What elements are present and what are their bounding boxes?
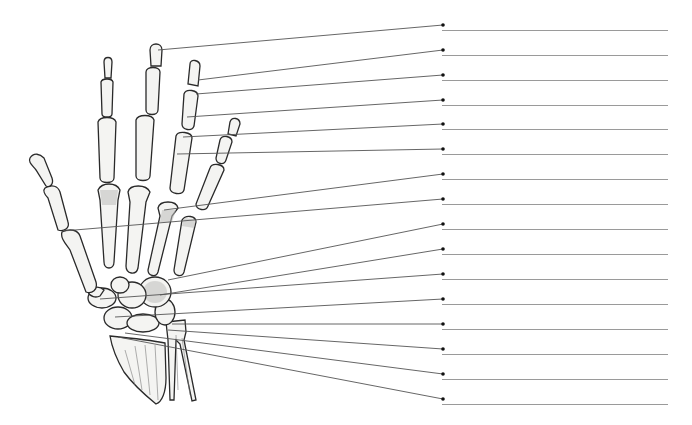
leader-dot: [441, 397, 445, 401]
label-slot-2: [198, 48, 668, 80]
leader-dot: [441, 222, 445, 226]
label-slot-8: [63, 197, 668, 231]
leader-line: [160, 249, 443, 295]
leader-dot: [441, 247, 445, 251]
label-slot-6: [177, 147, 668, 154]
label-slot-13: [172, 322, 668, 329]
hand-illustration: [29, 44, 240, 404]
leader-dot: [441, 48, 445, 52]
leader-dot: [441, 147, 445, 151]
label-slot-15: [125, 333, 668, 380]
label-slot-16: [118, 337, 668, 405]
label-slot-14: [168, 330, 668, 355]
leader-line: [158, 25, 443, 50]
leader-dot: [441, 98, 445, 102]
leader-line: [198, 50, 443, 80]
label-slot-12: [115, 297, 668, 317]
thumb-bones: [29, 154, 96, 292]
label-slot-3: [196, 73, 668, 94]
label-slot-4: [187, 98, 668, 117]
label-slot-10: [160, 247, 668, 295]
hand-skeleton-diagram: [0, 0, 692, 425]
leader-dot: [441, 347, 445, 351]
leader-dot: [441, 73, 445, 77]
forearm-bones: [110, 320, 196, 404]
leader-dot: [441, 322, 445, 326]
leader-dot: [441, 172, 445, 176]
label-slot-5: [183, 122, 668, 137]
leader-dot: [441, 297, 445, 301]
leader-dot: [441, 197, 445, 201]
leader-line: [196, 75, 443, 94]
leader-dot: [441, 23, 445, 27]
index-finger-bones: [98, 58, 120, 269]
leader-line: [187, 100, 443, 117]
leader-line: [183, 124, 443, 137]
label-slot-1: [158, 23, 668, 50]
leader-dot: [441, 272, 445, 276]
carpal-bones: [88, 277, 175, 332]
leader-dot: [441, 372, 445, 376]
leader-line: [168, 330, 443, 349]
leader-line: [63, 199, 443, 231]
leader-dot: [441, 122, 445, 126]
label-slot-9: [168, 222, 668, 280]
